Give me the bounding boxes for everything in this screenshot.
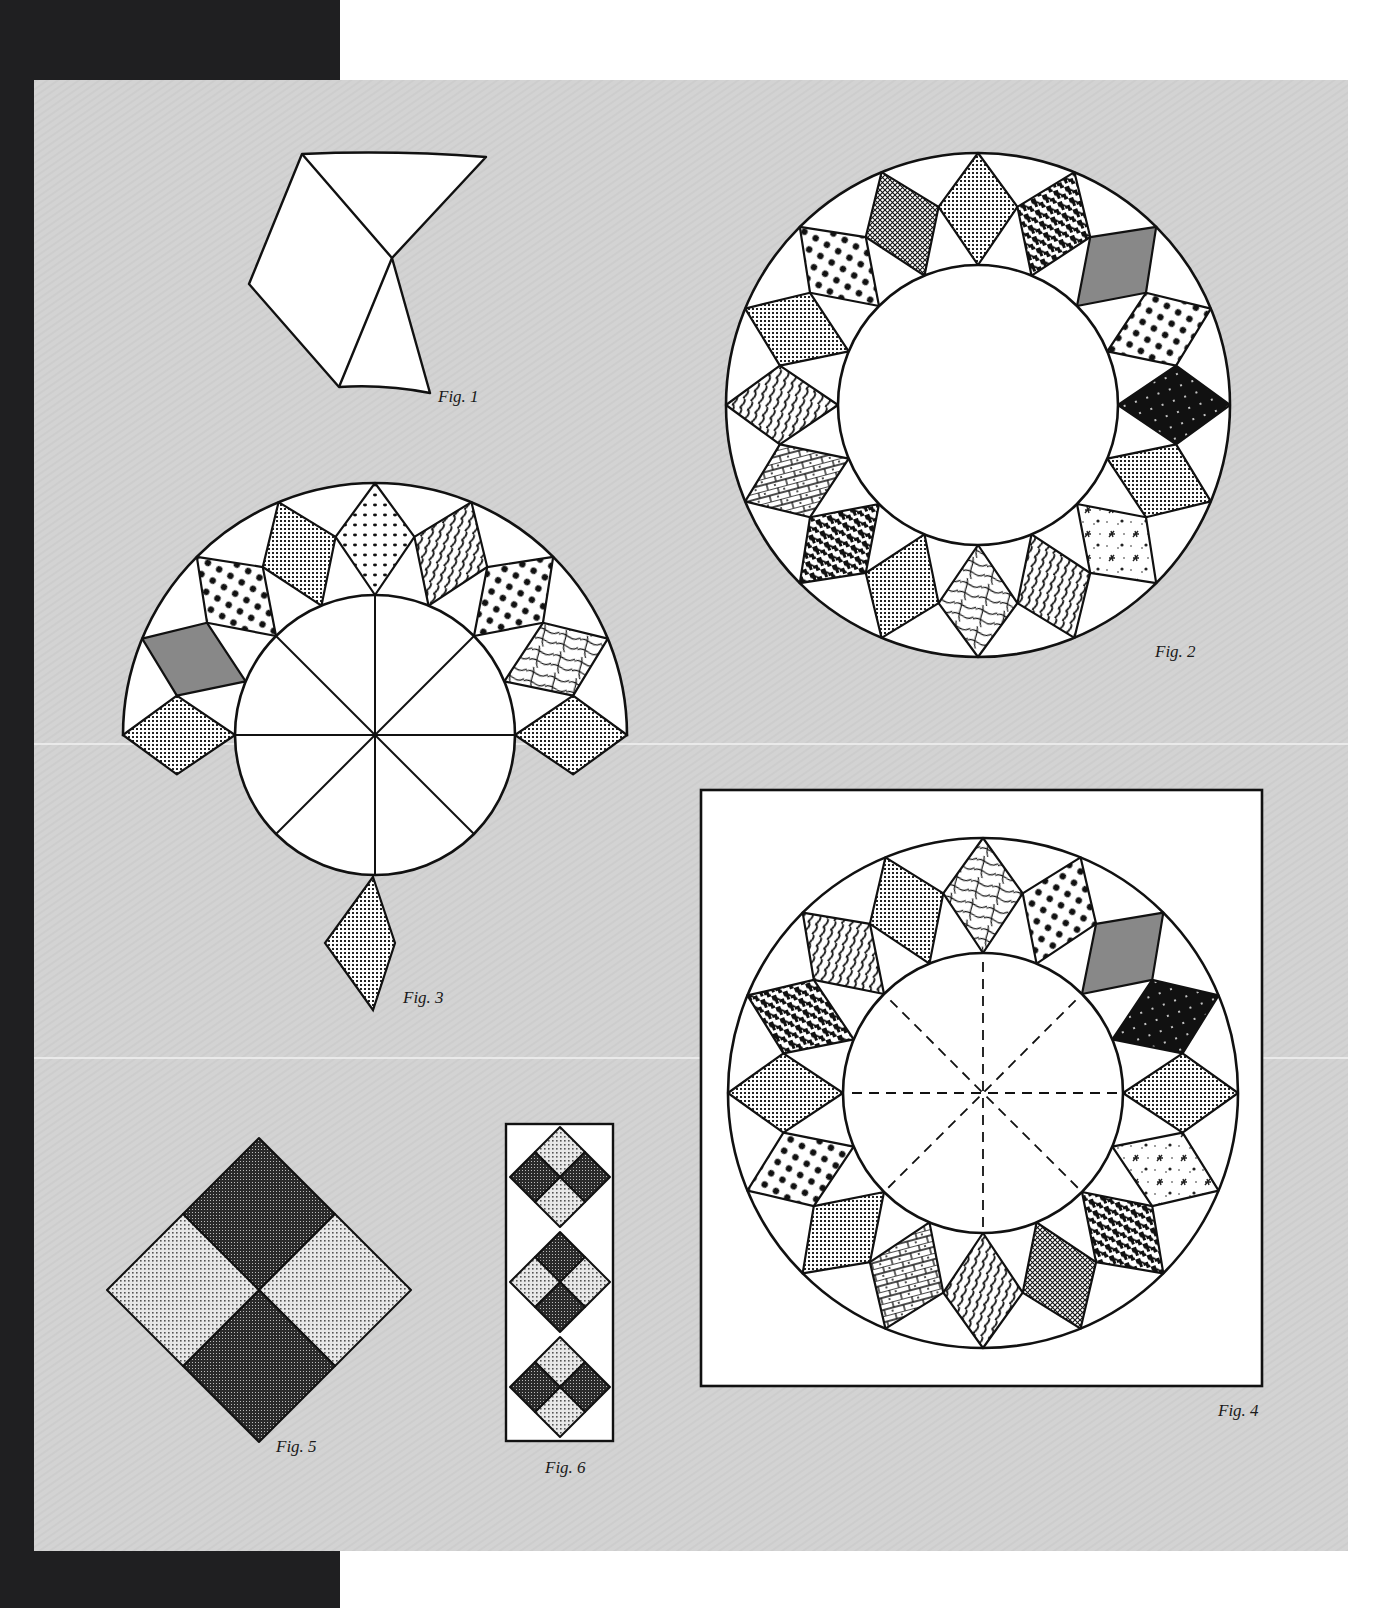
fig-1-label: Fig. 1	[437, 387, 479, 406]
figure-4-finished-block	[728, 838, 1238, 1348]
fig-4-label: Fig. 4	[1217, 1401, 1259, 1420]
quilt-instruction-page: Fig. 1 Fig. 2 Fig. 3 Fig. 4 Fig. 5 Fig. …	[0, 0, 1388, 1608]
fig-2-label: Fig. 2	[1154, 642, 1196, 661]
fig-3-label: Fig. 3	[402, 988, 444, 1007]
fig-5-label: Fig. 5	[275, 1437, 317, 1456]
fig-6-label: Fig. 6	[544, 1458, 586, 1477]
center-circle	[838, 265, 1118, 545]
figure-2-diamond-ring	[726, 153, 1230, 657]
figure-6-border-strip-blocks	[510, 1127, 610, 1437]
